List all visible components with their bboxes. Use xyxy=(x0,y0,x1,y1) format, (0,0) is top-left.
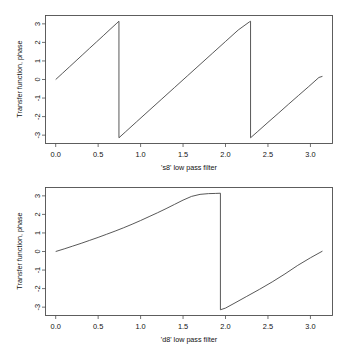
x-tick-label: 2.0 xyxy=(220,322,230,331)
x-tick-label: 3.0 xyxy=(305,322,315,331)
x-axis-ticks xyxy=(56,316,311,320)
plot-frame xyxy=(46,188,333,316)
y-axis-ticks xyxy=(42,196,46,307)
x-axis-title: 's8' low pass filter xyxy=(161,163,217,172)
y-tick-label: -1 xyxy=(33,267,42,274)
y-axis-ticks xyxy=(42,24,46,135)
data-line-phase xyxy=(56,21,323,138)
x-axis-tick-labels: 0.00.51.01.52.02.53.0 xyxy=(51,322,316,331)
x-axis-ticks xyxy=(56,144,311,148)
y-tick-label: -2 xyxy=(33,113,42,120)
chart-panel-d8: 0.00.51.01.52.02.53.0 -3-2-10123 Transfe… xyxy=(0,176,346,354)
x-tick-label: 1.0 xyxy=(135,150,145,159)
y-tick-label: 3 xyxy=(33,194,42,198)
y-axis-title: Transfer function, phase xyxy=(15,40,24,117)
chart-panel-s8: 0.00.51.01.52.02.53.0 -3-2-10123 Transfe… xyxy=(0,0,346,178)
x-tick-label: 3.0 xyxy=(305,150,315,159)
plot-frame xyxy=(46,16,333,144)
x-tick-label: 1.0 xyxy=(135,322,145,331)
x-tick-label: 0.0 xyxy=(51,322,61,331)
y-tick-label: 1 xyxy=(33,59,42,63)
y-tick-label: 2 xyxy=(33,212,42,216)
x-tick-label: 1.5 xyxy=(178,322,188,331)
y-tick-label: 0 xyxy=(33,77,42,81)
y-tick-label: 1 xyxy=(33,231,42,235)
x-tick-label: 2.5 xyxy=(263,322,273,331)
x-axis-title: 'd8' low pass filter xyxy=(161,335,218,344)
data-line-phase xyxy=(56,193,323,310)
y-tick-label: -3 xyxy=(33,132,42,139)
x-axis-tick-labels: 0.00.51.01.52.02.53.0 xyxy=(51,150,316,159)
x-tick-label: 0.5 xyxy=(93,150,103,159)
y-tick-label: -3 xyxy=(33,304,42,311)
plot-area-s8: 0.00.51.01.52.02.53.0 -3-2-10123 Transfe… xyxy=(0,0,346,178)
x-tick-label: 2.0 xyxy=(220,150,230,159)
x-tick-label: 0.5 xyxy=(93,322,103,331)
plot-area-d8: 0.00.51.01.52.02.53.0 -3-2-10123 Transfe… xyxy=(0,176,346,354)
y-axis-tick-labels: -3-2-10123 xyxy=(33,194,42,311)
y-tick-label: -2 xyxy=(33,285,42,292)
x-tick-label: 1.5 xyxy=(178,150,188,159)
y-tick-label: -1 xyxy=(33,95,42,102)
y-tick-label: 2 xyxy=(33,40,42,44)
figure-canvas: 0.00.51.01.52.02.53.0 -3-2-10123 Transfe… xyxy=(0,0,346,354)
y-tick-label: 0 xyxy=(33,249,42,253)
x-tick-label: 0.0 xyxy=(51,150,61,159)
y-tick-label: 3 xyxy=(33,22,42,26)
x-tick-label: 2.5 xyxy=(263,150,273,159)
y-axis-tick-labels: -3-2-10123 xyxy=(33,22,42,139)
y-axis-title: Transfer function, phase xyxy=(15,212,24,289)
